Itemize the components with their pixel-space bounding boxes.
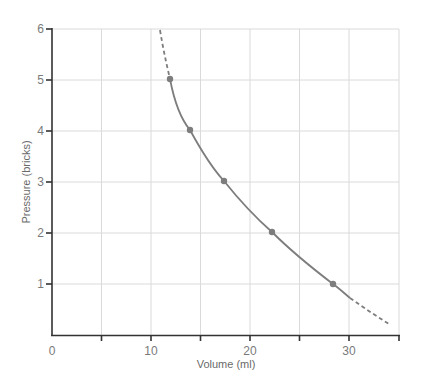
x-tick-20: 20 — [243, 344, 257, 358]
x-tick-0: 0 — [49, 344, 56, 358]
y-tick-4: 4 — [37, 124, 44, 138]
x-tick-labels: 0 10 20 30 — [49, 344, 356, 358]
y-axis-title: Pressure (bricks) — [20, 140, 32, 223]
pressure-volume-chart: 6 5 4 3 2 1 0 10 20 30 Volume (ml) Press… — [0, 0, 421, 390]
extrapolation-lower — [350, 298, 389, 324]
extrapolation-upper — [160, 30, 170, 79]
y-tick-6: 6 — [37, 22, 44, 36]
data-point — [269, 229, 275, 235]
axes — [46, 28, 400, 341]
x-tick-10: 10 — [144, 344, 158, 358]
y-tick-labels: 6 5 4 3 2 1 — [37, 22, 44, 291]
y-tick-2: 2 — [37, 226, 44, 240]
data-point — [330, 281, 336, 287]
y-tick-5: 5 — [37, 73, 44, 87]
y-tick-1: 1 — [37, 277, 44, 291]
x-tick-30: 30 — [342, 344, 356, 358]
curve-solid — [170, 79, 350, 298]
data-point — [187, 127, 193, 133]
x-axis-title: Volume (ml) — [197, 358, 256, 370]
y-tick-3: 3 — [37, 175, 44, 189]
data-point — [221, 178, 227, 184]
data-point — [167, 76, 173, 82]
curve — [160, 30, 389, 324]
